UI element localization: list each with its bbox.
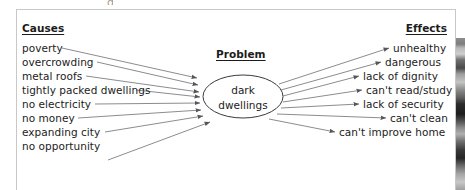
problem-node-line1: dark	[203, 84, 283, 96]
cause-item-poverty: poverty	[22, 42, 63, 54]
effect-item-cant-clean: can't clean	[390, 112, 448, 124]
cause-item-metal-roofs: metal roofs	[22, 70, 82, 82]
effect-arrow-4	[283, 90, 362, 102]
problem-node-ellipse	[203, 75, 283, 118]
effect-item-lack-of-security: lack of security	[363, 98, 444, 110]
effect-arrow-7	[269, 119, 335, 132]
cause-item-tightly-packed-dwellings: tightly packed dwellings	[22, 84, 150, 96]
cause-item-expanding-city: expanding city	[22, 126, 100, 138]
causes-heading: Causes	[22, 22, 64, 34]
cause-arrow-8	[108, 122, 210, 160]
cause-item-no-electricity: no electricity	[22, 98, 91, 110]
cause-arrow-6	[78, 110, 201, 118]
problem-node-line2: dwellings	[203, 99, 283, 111]
effect-arrow-5	[281, 104, 359, 108]
problem-heading: Problem	[216, 48, 266, 60]
cause-item-no-opportunity: no opportunity	[22, 140, 100, 152]
effect-item-cant-read-study: can't read/study	[366, 84, 452, 96]
diagram-screenshot: g	[0, 0, 465, 190]
cause-arrow-2	[97, 62, 198, 85]
effect-arrow-6	[277, 114, 386, 118]
effect-item-dangerous: dangerous	[385, 56, 441, 68]
cause-arrow-5	[95, 103, 200, 104]
effect-item-unhealthy: unhealthy	[393, 42, 446, 54]
cause-item-no-money: no money	[22, 112, 75, 124]
effect-item-cant-improve-home: can't improve home	[339, 126, 445, 138]
cause-arrow-7	[105, 116, 203, 132]
effects-heading: Effects	[406, 22, 447, 34]
effect-item-lack-of-dignity: lack of dignity	[363, 70, 438, 82]
cause-item-overcrowding: overcrowding	[22, 56, 94, 68]
